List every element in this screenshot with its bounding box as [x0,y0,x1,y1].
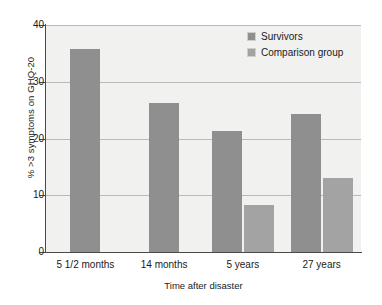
legend-swatch-icon [247,48,256,57]
legend-label: Survivors [261,31,303,42]
gridline-40 [46,25,361,26]
bar-survivors-0 [70,49,100,252]
x-axis-label-2: 5 years [204,259,283,270]
legend-label: Comparison group [261,47,343,58]
y-tick-label-10: 10 [14,190,44,200]
bar-survivors-3 [291,114,321,252]
legend-item-survivors: Survivors [247,29,343,43]
x-axis-line [45,252,362,253]
x-axis-label-3: 27 years [282,259,361,270]
legend-item-comparison-group: Comparison group [247,45,343,59]
bar-chart: % >3 symptoms on GHQ-20 010203040 5 1/2 … [0,0,382,305]
x-axis-label-0: 5 1/2 months [46,259,125,270]
x-axis-label-1: 14 months [125,259,204,270]
y-axis-title: % >3 symptoms on GHQ-20 [25,18,36,218]
legend-swatch-icon [247,32,256,41]
bar-survivors-1 [149,103,179,252]
x-axis-title: Time after disaster [46,280,361,291]
y-tick-label-30: 30 [14,77,44,87]
y-tick-label-20: 20 [14,134,44,144]
legend: SurvivorsComparison group [247,29,343,61]
y-tick-label-40: 40 [14,20,44,30]
bar-survivors-2 [212,131,242,252]
bar-comparison-group-3 [323,178,353,252]
y-tick-label-0: 0 [14,247,44,257]
bar-comparison-group-2 [244,205,274,252]
